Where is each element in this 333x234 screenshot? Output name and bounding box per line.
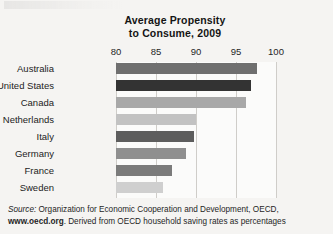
plot-area: AustraliaUnited StatesCanadaNetherlandsI… bbox=[116, 62, 276, 198]
bar-row: Germany bbox=[116, 147, 276, 164]
bar-germany[interactable] bbox=[116, 148, 186, 159]
source-body-2: . Derived from OECD household saving rat… bbox=[64, 217, 286, 226]
bar-netherlands[interactable] bbox=[116, 114, 196, 125]
chart-title: Average Propensity to Consume, 2009 bbox=[60, 14, 290, 39]
x-tick-label-100: 100 bbox=[261, 46, 291, 57]
bar-rows: AustraliaUnited StatesCanadaNetherlandsI… bbox=[116, 62, 276, 198]
bar-row: Italy bbox=[116, 130, 276, 147]
category-label-sweden: Sweden bbox=[0, 182, 54, 193]
bar-sweden[interactable] bbox=[116, 182, 163, 193]
x-axis-tick-labels: 80859095100 bbox=[0, 46, 333, 60]
bar-united-states[interactable] bbox=[116, 80, 251, 91]
x-tick-label-90: 90 bbox=[181, 46, 211, 57]
x-tick-label-80: 80 bbox=[101, 46, 131, 57]
bar-row: Netherlands bbox=[116, 113, 276, 130]
bar-canada[interactable] bbox=[116, 97, 246, 108]
bar-italy[interactable] bbox=[116, 131, 194, 142]
bar-row: Sweden bbox=[116, 181, 276, 198]
source-url[interactable]: www.oecd.org bbox=[8, 217, 64, 226]
category-label-germany: Germany bbox=[0, 148, 54, 159]
category-label-france: France bbox=[0, 165, 54, 176]
scan-artifact bbox=[4, 1, 124, 9]
category-label-united-states: United States bbox=[0, 80, 54, 91]
category-label-canada: Canada bbox=[0, 97, 54, 108]
bar-row: United States bbox=[116, 79, 276, 96]
bar-france[interactable] bbox=[116, 165, 172, 176]
chart-title-line-2: to Consume, 2009 bbox=[60, 27, 290, 40]
chart-title-line-1: Average Propensity bbox=[125, 14, 226, 26]
source-note: Source: Organization for Economic Cooper… bbox=[8, 204, 328, 227]
source-lead: Source: bbox=[8, 205, 36, 214]
source-body-1: Organization for Economic Cooperation an… bbox=[36, 205, 279, 214]
bar-row: Canada bbox=[116, 96, 276, 113]
chart-figure: Average Propensity to Consume, 2009 8085… bbox=[0, 0, 333, 234]
x-tick-label-95: 95 bbox=[221, 46, 251, 57]
x-tick-label-85: 85 bbox=[141, 46, 171, 57]
bar-row: Australia bbox=[116, 62, 276, 79]
category-label-netherlands: Netherlands bbox=[0, 114, 54, 125]
bar-australia[interactable] bbox=[116, 63, 257, 74]
category-label-australia: Australia bbox=[0, 63, 54, 74]
bar-row: France bbox=[116, 164, 276, 181]
category-label-italy: Italy bbox=[0, 131, 54, 142]
gridline-100 bbox=[276, 62, 277, 198]
